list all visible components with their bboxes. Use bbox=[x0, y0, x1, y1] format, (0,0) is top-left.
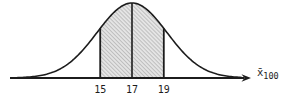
tick-label-17: 17 bbox=[126, 84, 138, 95]
figure-canvas: 15 17 19 x̄100 bbox=[0, 0, 288, 97]
tick-label-19: 19 bbox=[158, 84, 170, 95]
tick-label-15: 15 bbox=[94, 84, 106, 95]
x-axis-label: x̄100 bbox=[257, 66, 279, 81]
distribution-figure: 15 17 19 x̄100 bbox=[0, 0, 288, 97]
x-axis-label-subscript: 100 bbox=[263, 71, 278, 81]
